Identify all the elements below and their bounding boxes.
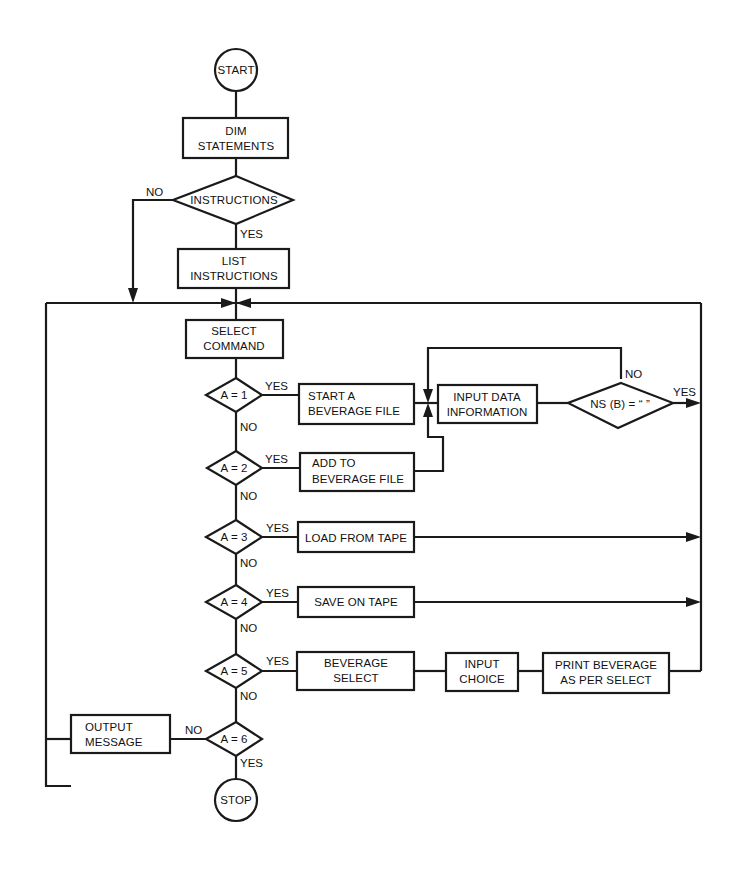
node-label: INSTRUCTIONS bbox=[190, 194, 278, 206]
node-instructions-decision: INSTRUCTIONS bbox=[173, 176, 293, 224]
node-label: START bbox=[217, 64, 254, 76]
process-box bbox=[183, 118, 288, 158]
edge-label-no: NO bbox=[240, 622, 257, 634]
node-label: A = 3 bbox=[220, 531, 247, 543]
node-label-line-1: LIST bbox=[222, 255, 247, 267]
node-beverage-select: BEVERAGE SELECT bbox=[297, 652, 414, 690]
node-label-line-1: INPUT DATA bbox=[453, 391, 521, 403]
node-list-instructions: LIST INSTRUCTIONS bbox=[178, 249, 289, 288]
node-label: A = 5 bbox=[220, 665, 247, 677]
node-label-line-2: CHOICE bbox=[459, 673, 505, 685]
arrow-down-icon bbox=[423, 389, 433, 403]
node-label: A = 6 bbox=[220, 733, 247, 745]
node-output-message: OUTPUT MESSAGE bbox=[71, 715, 170, 753]
node-label-line-1: SELECT bbox=[211, 325, 256, 337]
node-label-line-1: INPUT bbox=[465, 658, 500, 670]
node-label-line-1: BEVERAGE bbox=[324, 657, 388, 669]
left-return-line bbox=[46, 303, 71, 786]
edge-instructions-no bbox=[133, 200, 173, 296]
edge-label-yes: YES bbox=[240, 757, 263, 769]
node-start: START bbox=[215, 49, 257, 91]
edge-label-no: NO bbox=[625, 368, 642, 380]
node-label-line-2: INSTRUCTIONS bbox=[190, 270, 278, 282]
node-a3-decision: A = 3 bbox=[206, 520, 262, 554]
node-label-line-2: AS PER SELECT bbox=[560, 674, 651, 686]
node-start-beverage-file: START A BEVERAGE FILE bbox=[299, 384, 414, 424]
edge-label-yes: YES bbox=[266, 655, 289, 667]
node-dim-statements: DIM STATEMENTS bbox=[183, 118, 288, 158]
node-label: STOP bbox=[220, 794, 252, 806]
arrow-right-icon bbox=[686, 597, 701, 607]
node-label-line-1: DIM bbox=[225, 125, 246, 137]
edge-label-yes: YES bbox=[240, 228, 263, 240]
node-label-line-2: SELECT bbox=[333, 672, 378, 684]
flowchart-svg: START DIM STATEMENTS INSTRUCTIONS NO YES… bbox=[0, 0, 742, 877]
node-label: A = 4 bbox=[220, 596, 248, 608]
node-label-line-2: INFORMATION bbox=[447, 406, 528, 418]
node-label-line-2: BEVERAGE FILE bbox=[308, 405, 400, 417]
node-label-line-2: STATEMENTS bbox=[198, 140, 275, 152]
edge-label-no: NO bbox=[240, 490, 257, 502]
node-add-beverage-file: ADD TO BEVERAGE FILE bbox=[300, 453, 414, 491]
arrow-up-icon bbox=[423, 403, 433, 417]
arrow-right-icon bbox=[686, 532, 701, 542]
node-save-on-tape: SAVE ON TAPE bbox=[298, 587, 414, 617]
arrow-right-icon bbox=[686, 398, 701, 408]
edge-label-yes: YES bbox=[265, 453, 288, 465]
edge-label-yes: YES bbox=[266, 522, 289, 534]
node-a5-decision: A = 5 bbox=[206, 654, 262, 688]
node-nsb-decision: NS (B) = “ ” bbox=[568, 383, 673, 428]
node-a4-decision: A = 4 bbox=[206, 585, 262, 619]
node-a2-decision: A = 2 bbox=[207, 451, 262, 485]
edge-label-yes: YES bbox=[673, 386, 696, 398]
arrow-down-icon bbox=[128, 288, 138, 303]
node-print-beverage: PRINT BEVERAGE AS PER SELECT bbox=[543, 653, 669, 693]
node-label-line-1: PRINT BEVERAGE bbox=[555, 659, 657, 671]
node-label-line-1: START A bbox=[308, 390, 356, 402]
flowchart-canvas: START DIM STATEMENTS INSTRUCTIONS NO YES… bbox=[0, 0, 742, 877]
node-label-line-1: ADD TO bbox=[312, 457, 356, 469]
node-a1-decision: A = 1 bbox=[206, 378, 262, 412]
arrow-left-icon bbox=[236, 298, 251, 308]
node-label: SAVE ON TAPE bbox=[314, 596, 398, 608]
node-label: A = 2 bbox=[220, 462, 247, 474]
edge-label-no: NO bbox=[185, 724, 202, 736]
node-a6-decision: A = 6 bbox=[206, 722, 262, 756]
node-select-command: SELECT COMMAND bbox=[186, 320, 283, 358]
node-label: A = 1 bbox=[220, 389, 247, 401]
edge-label-no: NO bbox=[240, 690, 257, 702]
node-input-choice: INPUT CHOICE bbox=[446, 653, 518, 691]
node-label: LOAD FROM TAPE bbox=[305, 532, 407, 544]
node-load-from-tape: LOAD FROM TAPE bbox=[298, 522, 414, 552]
edge-label-yes: YES bbox=[266, 587, 289, 599]
node-label-line-2: COMMAND bbox=[203, 340, 264, 352]
edge-label-no: NO bbox=[146, 186, 163, 198]
node-label-line-2: MESSAGE bbox=[85, 736, 143, 748]
node-stop: STOP bbox=[215, 779, 257, 821]
node-input-data-information: INPUT DATA INFORMATION bbox=[438, 385, 537, 423]
edge-label-no: NO bbox=[240, 557, 257, 569]
edge-label-yes: YES bbox=[265, 380, 288, 392]
node-label-line-2: BEVERAGE FILE bbox=[312, 473, 404, 485]
arrow-right-icon bbox=[221, 298, 236, 308]
node-label: NS (B) = “ ” bbox=[590, 398, 650, 410]
node-label-line-1: OUTPUT bbox=[85, 721, 133, 733]
edge-label-no: NO bbox=[240, 421, 257, 433]
